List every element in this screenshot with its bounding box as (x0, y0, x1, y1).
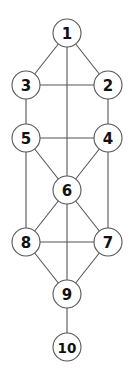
node-6: 6 (53, 176, 81, 204)
node-label: 1 (62, 25, 72, 43)
node-7: 7 (94, 228, 122, 256)
node-label: 8 (21, 234, 31, 252)
node-label: 3 (21, 77, 31, 95)
node-label: 6 (62, 182, 72, 200)
node-label: 2 (103, 77, 113, 95)
node-8: 8 (12, 228, 40, 256)
node-3: 3 (12, 71, 40, 99)
node-5: 5 (12, 124, 40, 152)
node-4: 4 (94, 124, 122, 152)
graph-diagram: 12345678910 (0, 0, 130, 379)
node-label: 9 (62, 286, 72, 304)
node-10: 10 (53, 333, 81, 361)
node-label: 7 (103, 234, 113, 252)
node-2: 2 (94, 71, 122, 99)
node-label: 5 (21, 130, 31, 148)
node-1: 1 (53, 19, 81, 47)
node-label: 10 (58, 340, 77, 356)
node-label: 4 (103, 130, 113, 148)
node-9: 9 (53, 280, 81, 308)
